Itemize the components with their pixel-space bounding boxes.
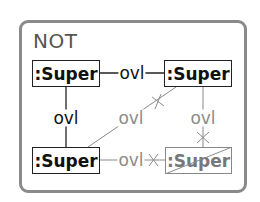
strike-through-icon	[165, 147, 232, 174]
edge-label-top: ovl	[118, 65, 145, 82]
node-bottom-right-negated: :Super	[165, 147, 232, 174]
edge-label-bottom: ovl	[117, 152, 144, 169]
node-top-right: :Super	[164, 60, 232, 87]
edge-label-right: ovl	[189, 110, 216, 127]
edge-label-diagonal: ovl	[117, 110, 144, 127]
edge-label-left: ovl	[52, 110, 79, 127]
node-bottom-left: :Super	[32, 147, 100, 174]
node-label: :Super	[34, 64, 97, 84]
node-label: :Super	[34, 151, 97, 171]
node-label: :Super	[166, 64, 229, 84]
node-top-left: :Super	[32, 60, 100, 87]
diagram-canvas: NOT :Super :Super :Super :Super	[0, 0, 260, 202]
